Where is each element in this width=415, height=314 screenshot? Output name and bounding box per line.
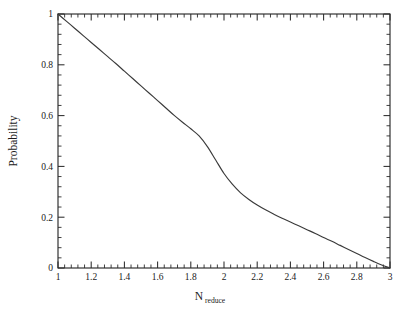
x-tick-label: 1.6	[152, 272, 164, 282]
y-tick-label: 0.2	[41, 213, 53, 223]
chart-background	[0, 0, 415, 314]
y-tick-label: 0.4	[41, 162, 53, 172]
x-tick-label: 2.2	[251, 272, 263, 282]
x-axis-title-subscript: reduce	[205, 296, 226, 305]
y-tick-label: 0.8	[41, 60, 53, 70]
y-tick-label: 0.6	[41, 111, 53, 121]
x-tick-label: 3	[388, 272, 393, 282]
y-axis-title: Probability	[7, 115, 20, 166]
x-tick-label: 2.4	[284, 272, 296, 282]
x-tick-label: 2.8	[351, 272, 363, 282]
x-tick-label: 2.6	[318, 272, 330, 282]
y-tick-label: 1	[48, 9, 53, 19]
x-tick-label: 1.4	[118, 272, 130, 282]
x-tick-label: 1.2	[85, 272, 97, 282]
x-tick-label: 1.8	[185, 272, 197, 282]
y-tick-label: 0	[48, 263, 53, 273]
x-tick-label: 1	[56, 272, 61, 282]
chart-figure: 11.21.41.61.822.22.42.62.83 00.20.40.60.…	[0, 0, 415, 314]
x-axis-title: N	[195, 290, 204, 302]
probability-vs-nreduce-chart: 11.21.41.61.822.22.42.62.83 00.20.40.60.…	[0, 0, 415, 314]
x-tick-label: 2	[222, 272, 227, 282]
